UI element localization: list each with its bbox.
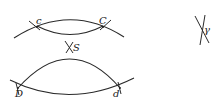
label-c: c xyxy=(36,15,42,26)
label-D: D xyxy=(14,88,23,99)
lower-arc-convex xyxy=(18,59,120,88)
cross-S-1 xyxy=(65,41,73,53)
label-C: C xyxy=(99,15,107,26)
point-c xyxy=(36,26,38,28)
construction-diagram: c C S D d γ xyxy=(0,0,221,107)
label-S: S xyxy=(73,42,80,53)
label-d: d xyxy=(113,88,119,99)
upper-arc-concave xyxy=(37,26,103,35)
point-C xyxy=(102,26,104,28)
label-gamma: γ xyxy=(204,24,210,35)
